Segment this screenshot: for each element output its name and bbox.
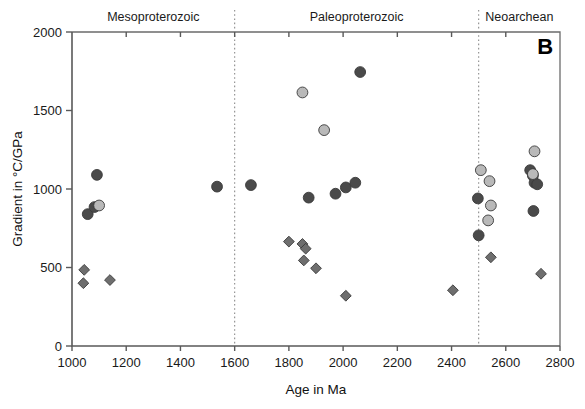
era-label-mesoproterozoic: Mesoproterozoic (107, 10, 199, 24)
data-point-diamond-10 (485, 252, 496, 263)
y-tick-label-2000: 2000 (33, 25, 62, 40)
data-point-light-circle-4 (484, 176, 495, 187)
data-point-dark-circle-5 (303, 192, 314, 203)
data-point-light-circle-8 (527, 169, 538, 180)
x-tick-label-1600: 1600 (220, 355, 249, 370)
data-point-light-circle-0 (94, 200, 105, 211)
data-point-light-circle-1 (297, 87, 308, 98)
data-point-diamond-9 (448, 285, 459, 296)
data-point-dark-circle-15 (532, 179, 543, 190)
plot-frame-layer (72, 32, 560, 346)
data-point-diamond-1 (78, 278, 89, 289)
panel-letter: B (537, 34, 553, 59)
data-point-light-circle-3 (475, 165, 486, 176)
x-tick-label-2800: 2800 (546, 355, 575, 370)
data-point-diamond-7 (311, 263, 322, 274)
data-point-light-circle-7 (529, 146, 540, 157)
plot-frame (72, 32, 560, 346)
y-tick-label-0: 0 (55, 339, 62, 354)
x-tick-label-2600: 2600 (491, 355, 520, 370)
plot-axes (72, 32, 560, 346)
tick-layer (66, 32, 560, 351)
data-point-light-circle-2 (319, 125, 330, 136)
data-point-dark-circle-4 (246, 180, 257, 191)
scatter-plot: 1000120014001600180020002200240026002800… (0, 0, 585, 409)
x-tick-label-1200: 1200 (112, 355, 141, 370)
x-tick-label-1800: 1800 (274, 355, 303, 370)
x-tick-label-1000: 1000 (58, 355, 87, 370)
data-point-diamond-8 (340, 290, 351, 301)
x-tick-label-2000: 2000 (329, 355, 358, 370)
x-tick-label-2200: 2200 (383, 355, 412, 370)
y-tick-label-1000: 1000 (33, 182, 62, 197)
figure-panel-b: 1000120014001600180020002200240026002800… (0, 0, 585, 409)
data-point-light-circle-6 (483, 215, 494, 226)
data-point-diamond-6 (298, 255, 309, 266)
data-point-dark-circle-3 (212, 181, 223, 192)
data-point-diamond-3 (283, 236, 294, 247)
era-label-layer: MesoproterozoicPaleoproterozoicNeoarchea… (107, 10, 553, 24)
era-label-paleoproterozoic: Paleoproterozoic (310, 10, 404, 24)
data-point-dark-circle-6 (330, 188, 341, 199)
data-point-dark-circle-1 (92, 169, 103, 180)
data-point-dark-circle-10 (472, 193, 483, 204)
x-tick-label-2400: 2400 (437, 355, 466, 370)
data-point-dark-circle-16 (528, 206, 539, 217)
data-point-dark-circle-9 (355, 67, 366, 78)
data-point-diamond-11 (536, 268, 547, 279)
data-point-diamond-0 (79, 264, 90, 275)
data-point-dark-circle-8 (350, 177, 361, 188)
data-point-light-circle-5 (485, 200, 496, 211)
x-tick-label-1400: 1400 (166, 355, 195, 370)
y-tick-label-500: 500 (40, 260, 62, 275)
data-points-layer (78, 67, 546, 302)
x-axis-title: Age in Ma (286, 382, 347, 397)
data-point-dark-circle-11 (473, 230, 484, 241)
era-label-neoarchean: Neoarchean (485, 10, 553, 24)
y-tick-label-1500: 1500 (33, 103, 62, 118)
y-axis-title: Gradient in °C/GPa (10, 131, 25, 247)
data-point-diamond-2 (105, 275, 116, 286)
